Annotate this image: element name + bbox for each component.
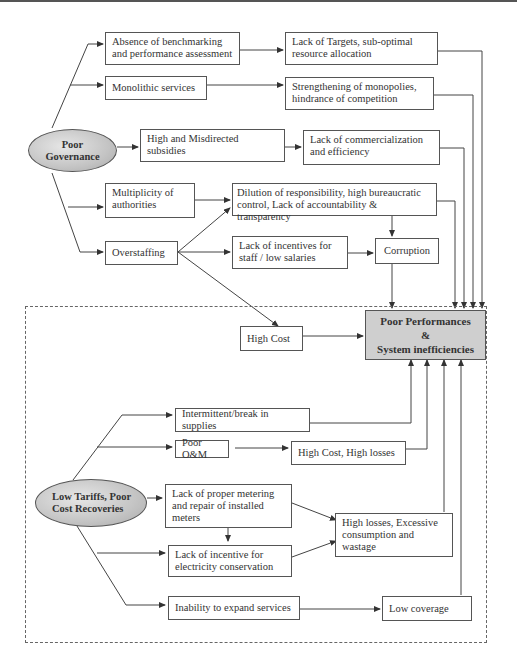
node-high-losses: High losses, Excessive consumption and w… [335,513,453,557]
node-expand-services: Inability to expand services [168,596,300,620]
root-label-line: Governance [45,151,99,163]
node-monolithic: Monolithic services [105,76,207,100]
root-poor-governance: Poor Governance [28,129,117,172]
node-label: Monolithic services [112,82,195,94]
outcome-line: Poor Performances [366,315,485,327]
root-label-line: Poor [45,139,99,151]
node-label: High losses, Excessive consumption and w… [342,517,438,552]
node-label: Intermittent/break in supplies [182,408,303,432]
node-metering: Lack of proper metering and repair of in… [165,484,292,528]
node-poor-om: Poor O&M [175,440,229,458]
node-poor-performances: Poor Performances & System inefficiencie… [365,310,486,360]
node-multiplicity: Multiplicity of authorities [105,183,195,218]
node-label: Poor O&M [182,437,222,461]
node-subsidies: High and Misdirected subsidies [140,129,285,162]
node-lack-of-targets: Lack of Targets, sub-optimal resource al… [285,32,438,65]
node-label: Low coverage [389,603,449,615]
node-label: Lack of incentive for electricity conser… [175,549,273,572]
node-label: Lack of proper metering and repair of in… [172,488,274,523]
node-conservation: Lack of incentive for electricity conser… [168,545,292,577]
root-low-tariffs: Low Tariffs, Poor Cost Recoveries [35,479,147,527]
node-label: Absence of benchmarking and performance … [112,36,232,59]
node-overstaffing: Overstaffing [105,241,178,265]
node-low-coverage: Low coverage [382,596,472,621]
node-label: Lack of commercialization and efficiency [310,134,423,157]
outcome-line: & [366,329,485,341]
node-cost-losses: High Cost, High losses [291,441,406,465]
node-lack-incentives-staff: Lack of incentives for staff / low salar… [232,236,348,269]
node-label: Strengthening of monopolies, hindrance o… [292,81,417,104]
outcome-line: System inefficiencies [366,343,485,355]
node-label: Inability to expand services [175,602,291,614]
node-label: High Cost, High losses [298,447,395,459]
node-label: Lack of incentives for staff / low salar… [239,240,331,263]
node-benchmarking: Absence of benchmarking and performance … [105,32,240,65]
node-label: High Cost [247,333,290,345]
node-intermittent: Intermittent/break in supplies [175,408,310,432]
node-label: Multiplicity of authorities [112,187,174,210]
node-label: High and Misdirected subsidies [147,133,239,156]
root-label-line: Cost Recoveries [52,503,131,515]
node-label: Lack of Targets, sub-optimal resource al… [292,36,413,59]
node-monopolies: Strengthening of monopolies, hindrance o… [285,77,434,110]
node-dilution: Dilution of responsibility, high bureauc… [232,183,437,216]
node-corruption: Corruption [375,238,439,264]
node-high-cost: High Cost [240,326,303,351]
node-commercialization: Lack of commercialization and efficiency [303,130,440,165]
node-label: Corruption [384,245,430,257]
node-label: Overstaffing [112,247,165,259]
root-label-line: Low Tariffs, Poor [52,491,131,503]
